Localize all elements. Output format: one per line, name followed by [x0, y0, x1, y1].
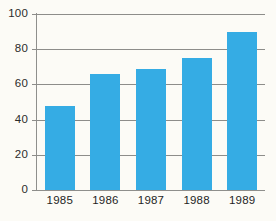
- y-axis-tick-label: 80: [15, 43, 28, 55]
- y-axis-tick-label: 0: [21, 184, 28, 196]
- y-axis-tick: [32, 190, 37, 191]
- bar-1988[interactable]: [182, 58, 212, 190]
- y-axis-tick: [32, 120, 37, 121]
- x-axis-label-1989: 1989: [229, 195, 255, 207]
- y-axis-tick: [32, 155, 37, 156]
- y-axis-tick-label: 40: [15, 114, 28, 126]
- y-axis-tick: [32, 49, 37, 50]
- bar-chart: 020406080100 19851986198719881989: [0, 0, 276, 221]
- x-axis-label-1985: 1985: [47, 195, 73, 207]
- plot-area: 020406080100: [37, 14, 265, 190]
- x-axis-label-1986: 1986: [92, 195, 118, 207]
- bar-1985[interactable]: [45, 106, 75, 190]
- y-axis-tick-label: 100: [8, 8, 28, 20]
- bar-1989[interactable]: [227, 32, 257, 190]
- x-axis-label-1987: 1987: [138, 195, 164, 207]
- x-axis-label-1988: 1988: [183, 195, 209, 207]
- y-axis-tick-label: 60: [15, 79, 28, 91]
- bar-1987[interactable]: [136, 69, 166, 190]
- gridline: [37, 14, 265, 15]
- y-axis-tick: [32, 14, 37, 15]
- y-axis-tick-label: 20: [15, 149, 28, 161]
- x-axis-tick-labels: 19851986198719881989: [37, 193, 265, 213]
- y-axis-tick: [32, 84, 37, 85]
- bar-1986[interactable]: [90, 74, 120, 190]
